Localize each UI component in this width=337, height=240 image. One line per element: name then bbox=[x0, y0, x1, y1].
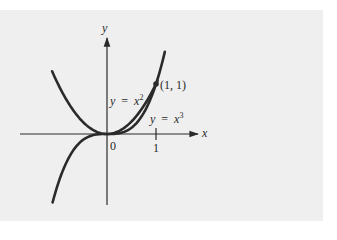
x-tick-label-1: 1 bbox=[153, 142, 159, 154]
eq-exp: 2 bbox=[139, 93, 143, 102]
eq-sign: = bbox=[161, 112, 168, 126]
eq-exp: 3 bbox=[179, 111, 183, 120]
y-axis-label: y bbox=[102, 22, 107, 34]
eq-var: y bbox=[110, 94, 115, 108]
eq-var: y bbox=[150, 112, 155, 126]
x-axis-label: x bbox=[202, 127, 207, 139]
intersection-point bbox=[153, 81, 159, 87]
label-y-equals-x-cubed: y = x3 bbox=[150, 113, 183, 125]
curve-y-equals-x-cubed bbox=[53, 52, 165, 203]
label-y-equals-x-squared: y = x2 bbox=[110, 95, 143, 107]
point-label: (1, 1) bbox=[160, 79, 186, 91]
origin-label: 0 bbox=[110, 140, 116, 152]
eq-sign: = bbox=[121, 94, 128, 108]
